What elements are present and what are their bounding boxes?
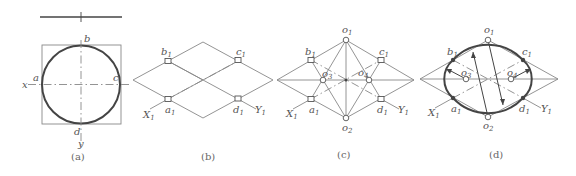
caption-b: (b) [201, 151, 215, 162]
axis-label-y: y [77, 138, 84, 149]
point-o1 [343, 37, 349, 43]
caption-d: (d) [489, 149, 503, 160]
y1-axis-extension [523, 98, 541, 108]
label-c1: c1 [379, 46, 389, 59]
label-o1: o1 [342, 24, 353, 37]
point-a1 [451, 96, 455, 100]
label-a1: a1 [309, 104, 319, 117]
caption-a: (a) [71, 151, 85, 162]
label-b1: b1 [161, 46, 172, 59]
point-c1 [521, 58, 525, 62]
point-d1 [378, 97, 384, 102]
label-Y1: Y1 [255, 104, 266, 117]
panel-d: o1 o2 o3 o4 b1 c1 a1 d1 X1 Y1 (d) [420, 24, 558, 160]
point-a1 [165, 97, 171, 102]
panel-b: b1 c1 a1 d1 X1 Y1 (b) [133, 42, 273, 162]
panel-c: o1 o2 o3 o4 b1 c1 a1 d1 X1 Y1 (c) [277, 24, 414, 160]
label-a1: a1 [165, 104, 175, 117]
label-X1: X1 [285, 108, 298, 121]
point-label-d: d [74, 126, 80, 137]
label-o4: o4 [358, 67, 369, 80]
point-o1 [485, 37, 491, 43]
grid-line [168, 61, 203, 80]
label-X1: X1 [427, 107, 440, 120]
label-o2: o2 [342, 122, 353, 135]
radius-line-o2 [473, 52, 488, 117]
point-label-c: c [113, 72, 119, 83]
point-c1 [378, 58, 384, 63]
label-d1: d1 [233, 104, 244, 117]
point-label-a: a [33, 72, 39, 83]
label-b1: b1 [447, 46, 458, 59]
label-c1: c1 [522, 46, 532, 59]
point-o2 [485, 114, 491, 120]
axis-label-x: x [22, 79, 28, 90]
label-b1: b1 [305, 46, 316, 59]
label-Y1: Y1 [541, 103, 552, 116]
point-d1 [521, 96, 525, 100]
label-c1: c1 [236, 46, 246, 59]
panel-a: x a b c d y (a) [22, 12, 130, 162]
label-d1: d1 [377, 104, 388, 117]
isometric-ellipse-construction-diagram: x a b c d y (a) b1 c1 a1 d1 X1 Y1 (b) [0, 0, 576, 176]
label-o1: o1 [484, 24, 495, 37]
center-point [345, 79, 348, 82]
label-Y1: Y1 [398, 104, 409, 117]
point-d1 [235, 96, 241, 101]
point-a1 [308, 97, 314, 102]
point-o2 [343, 115, 349, 121]
point-label-b: b [84, 33, 90, 44]
label-d1: d1 [519, 103, 530, 116]
point-c1 [235, 58, 241, 63]
point-b1 [165, 59, 171, 64]
label-o2: o2 [483, 120, 494, 133]
label-X1: X1 [142, 109, 155, 122]
caption-c: (c) [337, 149, 351, 160]
